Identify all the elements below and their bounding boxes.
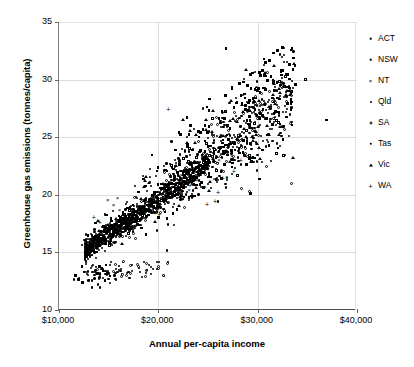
data-point <box>177 157 179 159</box>
data-point <box>147 204 149 206</box>
data-point <box>167 223 169 225</box>
data-point <box>282 82 284 84</box>
legend-item-wa[interactable]: WA <box>366 175 412 196</box>
data-point <box>130 222 132 224</box>
data-point <box>108 241 111 244</box>
data-point <box>173 177 175 179</box>
data-point <box>139 271 141 273</box>
data-point <box>227 144 230 147</box>
data-point <box>268 99 270 101</box>
data-point <box>91 254 93 256</box>
data-point <box>270 160 272 162</box>
data-point <box>211 117 214 120</box>
data-point <box>292 50 294 52</box>
legend-item-vic[interactable]: Vic <box>366 154 412 175</box>
data-point <box>99 286 101 288</box>
data-point <box>244 97 247 100</box>
data-point <box>292 68 295 71</box>
data-point <box>211 155 214 158</box>
data-point <box>271 128 273 130</box>
data-point <box>226 154 229 157</box>
data-point <box>238 82 241 85</box>
data-point <box>119 233 121 235</box>
data-point <box>286 102 289 105</box>
data-point <box>212 160 214 162</box>
data-point <box>94 271 96 273</box>
open-circle-icon <box>366 118 375 127</box>
data-point <box>181 148 183 150</box>
data-point <box>239 125 241 127</box>
data-point <box>128 277 130 279</box>
data-point <box>269 118 271 120</box>
data-point <box>164 203 166 205</box>
data-point <box>145 272 147 274</box>
data-point <box>109 282 111 284</box>
y-tick-label: 30 <box>24 75 52 84</box>
data-point <box>292 57 295 60</box>
data-point <box>261 69 264 72</box>
data-point <box>99 230 101 232</box>
data-point <box>182 157 185 160</box>
data-point <box>225 47 228 50</box>
data-point <box>213 139 215 141</box>
legend-item-qld[interactable]: Qld <box>366 91 412 112</box>
data-point <box>202 171 204 173</box>
data-point <box>285 95 287 97</box>
data-point <box>140 227 143 230</box>
data-point <box>163 165 165 167</box>
data-point <box>254 121 256 123</box>
data-point <box>206 131 209 134</box>
data-point <box>211 109 215 112</box>
data-point <box>130 228 132 230</box>
data-point <box>152 268 154 270</box>
data-point <box>223 146 226 149</box>
legend-item-nsw[interactable]: NSW <box>366 49 412 70</box>
data-point <box>241 102 244 105</box>
data-point <box>131 270 133 272</box>
data-point <box>207 145 210 148</box>
data-point <box>250 148 252 150</box>
legend-item-sa[interactable]: SA <box>366 112 412 133</box>
data-point <box>278 80 281 83</box>
data-point <box>130 213 133 216</box>
data-point <box>223 163 226 166</box>
data-point <box>226 124 229 127</box>
y-tick-label: 20 <box>24 190 52 199</box>
data-point <box>189 124 192 127</box>
data-point <box>288 93 292 96</box>
data-point <box>244 104 247 107</box>
data-point <box>140 217 142 219</box>
data-point <box>91 279 93 281</box>
x-axis-title: Annual per-capita income <box>58 338 356 349</box>
data-point <box>236 101 239 104</box>
data-point <box>136 197 138 199</box>
data-point <box>224 183 226 185</box>
data-point <box>233 111 236 114</box>
data-point <box>228 102 230 104</box>
legend-item-tas[interactable]: Tas <box>366 133 412 154</box>
data-point <box>113 274 115 276</box>
data-point <box>108 273 110 275</box>
data-point <box>145 233 148 236</box>
legend-item-nt[interactable]: NT <box>366 70 412 91</box>
data-point <box>157 206 160 209</box>
data-point <box>94 222 97 225</box>
data-point <box>153 211 155 213</box>
data-point <box>185 155 187 157</box>
data-point <box>246 140 249 143</box>
data-point <box>244 147 247 150</box>
data-point <box>273 121 275 123</box>
data-point <box>276 49 279 52</box>
data-point <box>281 77 283 79</box>
legend-item-act[interactable]: ACT <box>366 28 412 49</box>
y-tick <box>55 80 59 81</box>
data-point <box>92 264 94 266</box>
data-point <box>205 155 208 158</box>
data-point <box>143 207 145 209</box>
data-point <box>179 179 181 181</box>
data-point <box>236 174 239 177</box>
data-point <box>112 210 114 212</box>
data-point <box>170 140 172 142</box>
data-point <box>127 232 130 235</box>
data-point <box>91 286 93 288</box>
